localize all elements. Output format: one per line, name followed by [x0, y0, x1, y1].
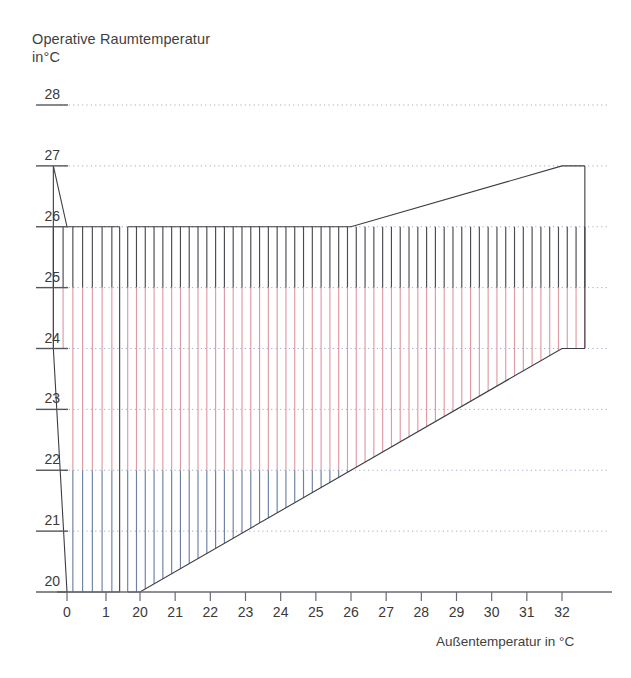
upper-boundary-left	[53, 166, 119, 227]
upper-boundary-right	[128, 166, 585, 227]
x-tick-label-23: 23	[233, 604, 259, 620]
x-tick-label-26: 26	[338, 604, 364, 620]
y-tick-label-26: 26	[34, 208, 60, 224]
y-tick-label-28: 28	[34, 86, 60, 102]
x-tick-label-27: 27	[373, 604, 399, 620]
x-tick-label-0: 0	[54, 604, 80, 620]
x-tick-label-25: 25	[303, 604, 329, 620]
chart-plot-area	[0, 0, 631, 678]
y-tick-label-24: 24	[34, 330, 60, 346]
y-tick-label-25: 25	[34, 269, 60, 285]
x-tick-label-22: 22	[197, 604, 223, 620]
x-tick-label-21: 21	[162, 604, 188, 620]
hatch-right-segment	[128, 227, 585, 592]
x-tick-label-28: 28	[408, 604, 434, 620]
y-tick-label-23: 23	[34, 390, 60, 406]
y-tick-label-27: 27	[34, 147, 60, 163]
x-tick-label-29: 29	[444, 604, 470, 620]
x-tick-label-24: 24	[268, 604, 294, 620]
chart-container: Operative Raumtemperatur in°C Außentempe…	[0, 0, 631, 678]
y-tick-label-20: 20	[34, 573, 60, 589]
y-tick-label-21: 21	[34, 512, 60, 528]
x-tick-label-20: 20	[127, 604, 153, 620]
y-tick-label-22: 22	[34, 451, 60, 467]
x-tick-label-32: 32	[549, 604, 575, 620]
x-tick-label-30: 30	[479, 604, 505, 620]
x-tick-label-31: 31	[514, 604, 540, 620]
x-tick-label-1: 1	[93, 604, 119, 620]
